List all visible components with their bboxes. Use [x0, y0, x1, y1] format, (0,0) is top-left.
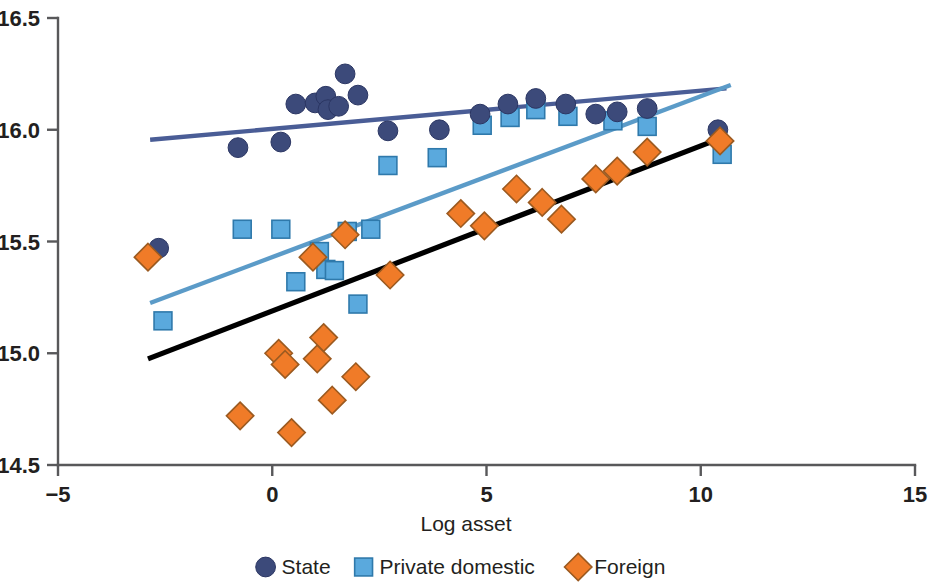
legend-marker-diamond-icon — [565, 553, 592, 580]
chart-legend: StatePrivate domesticForeign — [256, 553, 666, 580]
y-tick-label: 15.0 — [0, 341, 40, 366]
data-points-group — [134, 64, 733, 446]
data-point — [548, 205, 575, 232]
legend-marker-square-icon — [355, 558, 373, 576]
data-point — [325, 262, 343, 280]
series-diamond — [134, 127, 733, 446]
data-point — [362, 220, 380, 238]
data-point — [271, 132, 291, 152]
data-point — [556, 94, 576, 114]
x-tick-label: 0 — [266, 482, 278, 507]
data-point — [526, 89, 546, 109]
x-axis-ticks: −5051015 — [45, 465, 927, 507]
y-axis-ticks: 14.515.015.516.016.5 — [0, 6, 58, 478]
data-point — [278, 419, 305, 446]
data-point — [470, 104, 490, 124]
data-point — [342, 363, 369, 390]
y-tick-label: 16.5 — [0, 6, 40, 31]
data-point — [376, 261, 403, 288]
data-point — [378, 121, 398, 141]
data-point — [319, 387, 346, 414]
trend-line — [148, 138, 722, 359]
data-point — [349, 295, 367, 313]
data-point — [637, 99, 657, 119]
data-point — [586, 104, 606, 124]
data-point — [226, 402, 253, 429]
data-point — [287, 273, 305, 291]
data-point — [272, 220, 290, 238]
data-point — [428, 149, 446, 167]
legend-label: Foreign — [594, 555, 665, 578]
data-point — [228, 138, 248, 158]
x-tick-label: −5 — [45, 482, 70, 507]
data-point — [233, 220, 251, 238]
data-point — [638, 117, 656, 135]
data-point — [379, 157, 397, 175]
x-tick-label: 5 — [480, 482, 492, 507]
data-point — [348, 85, 368, 105]
y-tick-label: 15.5 — [0, 230, 40, 255]
y-tick-label: 16.0 — [0, 118, 40, 143]
x-tick-label: 10 — [689, 482, 713, 507]
x-tick-label: 15 — [903, 482, 927, 507]
data-point — [286, 94, 306, 114]
data-point — [329, 96, 349, 116]
legend-label: Private domestic — [380, 555, 535, 578]
axes-group — [58, 18, 915, 465]
legend-marker-circle-icon — [256, 557, 276, 577]
legend-item-circle[interactable]: State — [256, 555, 331, 578]
scatter-chart: 14.515.015.516.016.5 −5051015 Log asset … — [0, 0, 933, 582]
x-axis-title: Log asset — [420, 512, 511, 535]
data-point — [154, 312, 172, 330]
legend-label: State — [282, 555, 331, 578]
data-point — [607, 102, 627, 122]
legend-item-square[interactable]: Private domestic — [355, 555, 535, 578]
data-point — [335, 64, 355, 84]
data-point — [498, 94, 518, 114]
legend-item-diamond[interactable]: Foreign — [565, 553, 666, 580]
data-point — [429, 120, 449, 140]
data-point — [503, 175, 530, 202]
data-point — [447, 200, 474, 227]
y-tick-label: 14.5 — [0, 453, 40, 478]
chart-canvas: 14.515.015.516.016.5 −5051015 Log asset … — [0, 0, 933, 582]
